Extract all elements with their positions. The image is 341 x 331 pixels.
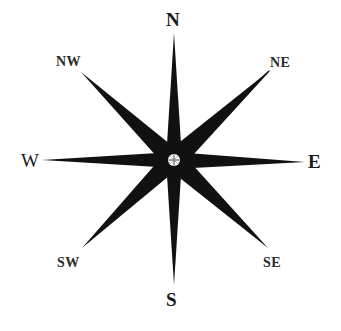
- point-n: [166, 33, 182, 160]
- label-north: N: [166, 10, 180, 29]
- label-east: E: [308, 152, 321, 171]
- label-southwest: SW: [57, 256, 80, 270]
- point-s: [166, 160, 182, 285]
- label-southeast: SE: [263, 256, 281, 270]
- compass-rose: [0, 0, 341, 331]
- label-northwest: NW: [56, 55, 81, 69]
- label-south: S: [166, 290, 177, 309]
- point-w: [42, 152, 174, 168]
- center-hub: [165, 151, 183, 169]
- label-northeast: NE: [270, 56, 290, 70]
- point-e: [174, 152, 305, 169]
- label-west: W: [21, 151, 39, 170]
